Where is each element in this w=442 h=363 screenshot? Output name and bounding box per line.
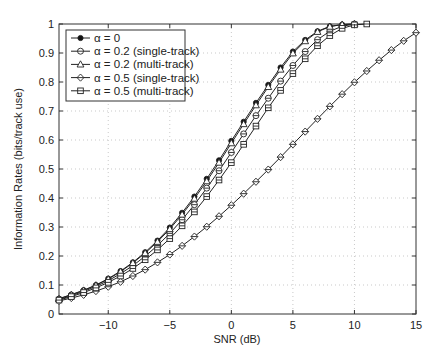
legend-label: α = 0.5 (multi-track) [94, 85, 194, 97]
legend-label: α = 0.2 (single-track) [94, 45, 200, 57]
y-tick-label: 0.5 [39, 163, 54, 175]
x-tick-label: 15 [410, 319, 422, 331]
y-tick-label: 0.7 [39, 105, 54, 117]
y-tick-label: 0.3 [39, 221, 54, 233]
x-tick-label: 5 [290, 319, 296, 331]
y-tick-label: 0.1 [39, 279, 54, 291]
y-tick-label: 0.2 [39, 250, 54, 262]
x-axis-label: SNR (dB) [213, 333, 260, 345]
y-tick-label: 0.6 [39, 134, 54, 146]
line-chart: −10−5051015 00.10.20.30.40.50.60.70.80.9… [0, 0, 442, 363]
y-tick-label: 1 [48, 18, 54, 30]
x-tick-label: 10 [348, 319, 360, 331]
y-tick-label: 0.8 [39, 76, 54, 88]
y-tick-label: 0.9 [39, 47, 54, 59]
x-tick-label: −10 [99, 319, 118, 331]
y-axis-label: Information Rates (bits/track use) [12, 88, 24, 250]
x-tick-label: −5 [164, 319, 177, 331]
legend-label: α = 0.2 (multi-track) [94, 58, 194, 70]
legend-label: α = 0.5 (single-track) [94, 72, 200, 84]
x-tick-label: 0 [228, 319, 234, 331]
y-tick-label: 0.4 [39, 192, 54, 204]
legend-label: α = 0 [94, 32, 120, 44]
y-tick-label: 0 [48, 308, 54, 320]
legend: α = 0α = 0.2 (single-track)α = 0.2 (mult… [66, 30, 200, 101]
